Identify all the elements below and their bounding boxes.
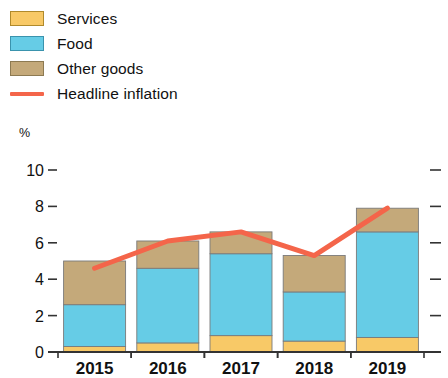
x-tick-label: 2018	[295, 359, 333, 378]
y-tick-label: 8	[35, 198, 44, 215]
bar-stack	[356, 208, 418, 352]
x-tick-label: 2016	[149, 359, 187, 378]
bar-segment	[137, 241, 199, 268]
y-axis-tick-labels: 0246810	[26, 162, 44, 361]
x-axis-tick-labels: 20152016201720182019	[76, 359, 407, 378]
bar-segment	[283, 256, 345, 292]
bar-stack	[64, 261, 126, 352]
bar-segment	[137, 343, 199, 352]
bar-segment	[210, 254, 272, 336]
y-tick-label: 0	[35, 344, 44, 361]
bar-stack	[283, 256, 345, 352]
bar-segment	[283, 292, 345, 341]
inflation-stacked-bar-chart: Services Food Other goods Headline infla…	[0, 0, 448, 378]
x-axis	[48, 352, 441, 358]
y-axis-tick-marks-right	[430, 170, 441, 352]
x-tick-label: 2017	[222, 359, 260, 378]
x-tick-label: 2019	[368, 359, 406, 378]
bar-segment	[356, 232, 418, 338]
plot-area: 0246810 20152016201720182019	[0, 0, 448, 378]
bar-segment	[356, 337, 418, 352]
y-axis-tick-marks-left	[48, 170, 57, 352]
y-tick-label: 4	[35, 271, 44, 288]
bar-segment	[210, 336, 272, 352]
bar-segment	[137, 268, 199, 343]
bar-segment	[283, 341, 345, 352]
x-tick-label: 2015	[76, 359, 114, 378]
y-tick-label: 2	[35, 308, 44, 325]
y-tick-label: 10	[26, 162, 44, 179]
y-tick-label: 6	[35, 235, 44, 252]
bar-segment	[64, 305, 126, 347]
bar-stack	[210, 232, 272, 352]
bar-stack	[137, 241, 199, 352]
